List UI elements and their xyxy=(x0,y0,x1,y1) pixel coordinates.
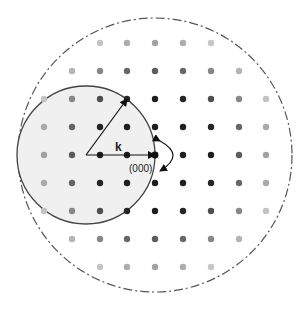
lattice-point xyxy=(208,152,214,158)
lattice-point xyxy=(152,40,158,46)
lattice-point xyxy=(236,124,242,130)
lattice-point xyxy=(97,68,103,74)
lattice-point xyxy=(180,124,186,130)
lattice-point xyxy=(124,124,130,130)
lattice-point xyxy=(152,68,158,74)
lattice-point xyxy=(263,96,269,102)
lattice-point xyxy=(180,180,186,186)
lattice-point xyxy=(208,264,214,270)
lattice-point xyxy=(69,68,75,74)
lattice-point xyxy=(124,264,130,270)
lattice-point xyxy=(236,180,242,186)
rotation-arc-arrow xyxy=(160,141,173,171)
lattice-point xyxy=(97,264,103,270)
lattice-point xyxy=(208,124,214,130)
lattice-point xyxy=(152,236,158,242)
lattice-point xyxy=(41,124,47,130)
lattice-point xyxy=(208,96,214,102)
lattice-point xyxy=(152,180,158,186)
lattice-point xyxy=(236,152,242,158)
diagram-canvas: k (000) xyxy=(0,0,306,311)
lattice-point xyxy=(236,68,242,74)
origin-label: (000) xyxy=(129,163,152,174)
lattice-point xyxy=(69,96,75,102)
lattice-point xyxy=(97,96,103,102)
lattice-point xyxy=(41,208,47,214)
lattice-point xyxy=(97,208,103,214)
lattice-point xyxy=(180,96,186,102)
lattice-point xyxy=(263,152,269,158)
lattice-point xyxy=(236,208,242,214)
lattice-point xyxy=(208,68,214,74)
lattice-point xyxy=(41,152,47,158)
lattice-point xyxy=(124,68,130,74)
lattice-point xyxy=(97,124,103,130)
lattice-point xyxy=(124,208,130,214)
lattice-point xyxy=(236,236,242,242)
lattice-point xyxy=(124,40,130,46)
lattice-point xyxy=(263,208,269,214)
ewald-sphere-diagram: k (000) xyxy=(0,0,306,311)
lattice-point xyxy=(208,40,214,46)
origin-point xyxy=(152,152,159,159)
lattice-point xyxy=(236,96,242,102)
lattice-point xyxy=(263,180,269,186)
lattice-point xyxy=(208,180,214,186)
lattice-point xyxy=(69,180,75,186)
lattice-point xyxy=(263,124,269,130)
lattice-point xyxy=(180,236,186,242)
lattice-point xyxy=(69,152,75,158)
lattice-point xyxy=(69,124,75,130)
lattice-point xyxy=(97,40,103,46)
lattice-point xyxy=(208,236,214,242)
wavevector-label: k xyxy=(115,140,122,154)
lattice-point xyxy=(41,96,47,102)
lattice-point xyxy=(41,180,47,186)
lattice-point xyxy=(152,96,158,102)
lattice-point xyxy=(180,208,186,214)
lattice-point xyxy=(180,152,186,158)
lattice-point xyxy=(152,208,158,214)
lattice-point xyxy=(69,208,75,214)
lattice-point xyxy=(97,236,103,242)
lattice-point xyxy=(124,180,130,186)
lattice-point xyxy=(180,68,186,74)
lattice-point xyxy=(97,180,103,186)
lattice-point xyxy=(69,236,75,242)
lattice-point xyxy=(152,264,158,270)
lattice-point xyxy=(208,208,214,214)
lattice-point xyxy=(152,124,158,130)
lattice-point xyxy=(124,236,130,242)
lattice-point xyxy=(180,264,186,270)
lattice-point xyxy=(180,40,186,46)
